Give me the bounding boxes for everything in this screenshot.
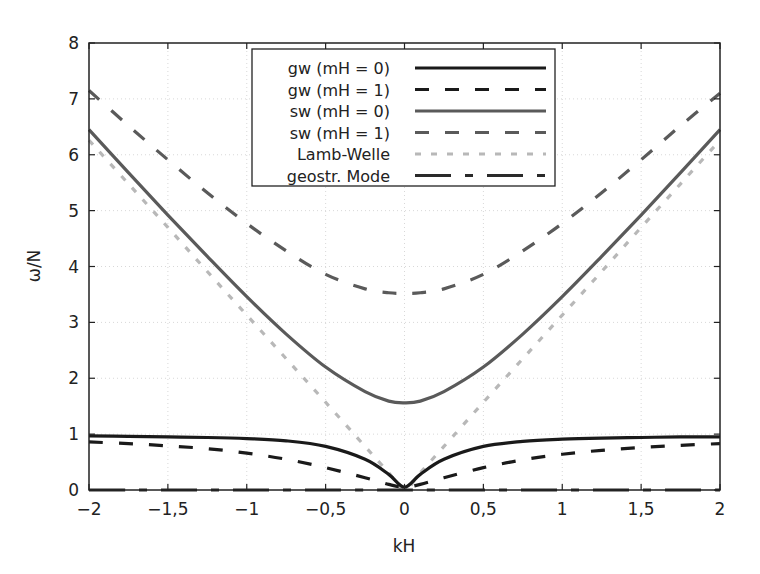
x-tick-label: 1 xyxy=(557,499,568,519)
y-tick-label: 7 xyxy=(68,89,79,109)
x-tick-label: −0,5 xyxy=(305,499,346,519)
x-tick-label: 2 xyxy=(715,499,726,519)
legend-label: gw (mH = 1) xyxy=(288,81,390,100)
legend-label: gw (mH = 0) xyxy=(288,59,390,78)
legend: gw (mH = 0)gw (mH = 1)sw (mH = 0)sw (mH … xyxy=(252,49,555,186)
legend-label: sw (mH = 1) xyxy=(290,124,390,143)
legend-label: sw (mH = 0) xyxy=(290,102,390,121)
y-tick-label: 0 xyxy=(68,480,79,500)
y-tick-label: 3 xyxy=(68,312,79,332)
series-line-1 xyxy=(89,442,720,487)
y-tick-label: 1 xyxy=(68,424,79,444)
y-tick-label: 8 xyxy=(68,33,79,53)
y-tick-label: 5 xyxy=(68,201,79,221)
y-tick-label: 2 xyxy=(68,368,79,388)
x-tick-label: 0 xyxy=(399,499,410,519)
y-tick-label: 4 xyxy=(68,257,79,277)
x-tick-label: 0,5 xyxy=(470,499,497,519)
legend-label: Lamb-Welle xyxy=(297,145,390,164)
x-tick-label: −2 xyxy=(76,499,101,519)
y-axis-label: ω/N xyxy=(24,250,44,283)
x-axis-label: kH xyxy=(393,536,416,556)
chart: −2−1,5−1−0,500,511,52012345678 kH ω/N gw… xyxy=(0,0,760,574)
x-tick-label: 1,5 xyxy=(628,499,655,519)
x-tick-label: −1,5 xyxy=(147,499,188,519)
legend-label: geostr. Mode xyxy=(287,167,390,186)
y-tick-label: 6 xyxy=(68,145,79,165)
x-tick-label: −1 xyxy=(234,499,259,519)
